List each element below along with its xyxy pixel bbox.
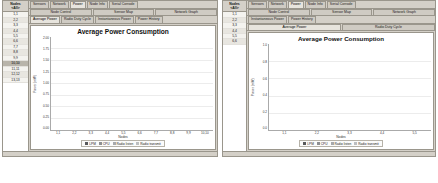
left-node-list-item[interactable]: 13,13 [3, 78, 28, 83]
left-legend-swatch-icon [85, 142, 88, 145]
left-grid-line [51, 60, 213, 61]
left-tab-row-primary[interactable]: SensorsNetworkPowerNode InfoSerial Conso… [29, 1, 217, 9]
left-tab-sensor-map[interactable]: Sensor Map [93, 9, 155, 16]
left-node-sidebar[interactable]: Nodes <All> 1,12,23,34,45,56,67,78,89,91… [3, 1, 29, 151]
right-chart-legend: LPMCPURadio listenRadio transmit [299, 140, 383, 147]
left-chart-legend: LPMCPURadio listenRadio transmit [81, 140, 165, 147]
right-y-axis-ticks: 1.00.80.60.40.20.0 [255, 44, 268, 130]
right-legend-swatch-icon [354, 142, 357, 145]
right-y-tick: 0.8 [263, 61, 267, 64]
right-legend-swatch-icon [317, 142, 320, 145]
right-sidebar-header: Nodes <All> [223, 1, 246, 12]
left-grid-line [51, 72, 213, 73]
right-legend-label: Radio listen [335, 142, 352, 146]
right-tab-node-info[interactable]: Node Info [305, 1, 326, 8]
left-y-tick: 1.50 [43, 59, 49, 62]
left-node-list[interactable]: 1,12,23,34,45,56,67,78,89,910,1011,1112,… [3, 12, 28, 151]
left-grid-line [51, 48, 213, 49]
left-tab-serial-console[interactable]: Serial Console [109, 1, 138, 8]
left-tab-sensors[interactable]: Sensors [30, 1, 49, 8]
right-legend-item: CPU [317, 142, 328, 146]
left-legend-item: LPM [85, 142, 96, 146]
left-tab-node-control[interactable]: Node Control [30, 9, 92, 16]
left-legend-swatch-icon [136, 142, 139, 145]
left-tab-average-power[interactable]: Average Power [30, 16, 60, 23]
left-legend-swatch-icon [113, 142, 116, 145]
left-legend-item: CPU [99, 142, 110, 146]
right-tab-power-history[interactable]: Power History [288, 16, 316, 23]
right-legend-swatch-icon [303, 142, 306, 145]
right-legend-item: Radio transmit [354, 142, 379, 146]
left-tab-row-tertiary[interactable]: Average PowerRadio Duty CycleInstantaneo… [29, 16, 217, 24]
left-legend-label: CPU [103, 142, 110, 146]
right-tab-serial-console[interactable]: Serial Console [327, 1, 356, 8]
left-chart-title: Average Power Consumption [31, 26, 215, 37]
left-sidebar-header-filter: <All> [3, 6, 28, 11]
left-window: Nodes <All> 1,12,23,34,45,56,67,78,89,91… [2, 0, 218, 152]
left-tab-power-history[interactable]: Power History [135, 16, 163, 23]
right-tab-instantaneous-power[interactable]: Instantaneous Power [248, 16, 287, 23]
left-tab-instantaneous-power[interactable]: Instantaneous Power [95, 16, 134, 23]
right-y-tick: 0.2 [263, 111, 267, 114]
left-legend-swatch-icon [99, 142, 102, 145]
left-grid-line [51, 118, 213, 119]
right-legend-swatch-icon [331, 142, 334, 145]
right-y-tick: 0.4 [263, 94, 267, 97]
right-x-axis-label: Nodes [249, 135, 433, 139]
left-tab-radio-duty-cycle[interactable]: Radio Duty Cycle [61, 16, 94, 23]
right-node-list-item[interactable]: 6,6 [223, 39, 246, 44]
right-node-sidebar[interactable]: Nodes <All> 1,12,23,34,45,56,6 [223, 1, 247, 151]
right-tab-power[interactable]: Power [288, 1, 304, 8]
left-status-bar [2, 152, 218, 157]
left-legend-item: Radio transmit [136, 142, 161, 146]
right-tab-row-quaternary[interactable]: Average PowerRadio Duty Cycle [247, 24, 435, 32]
right-legend-label: LPM [307, 142, 314, 146]
right-main-column: SensorsNetworkPowerNode InfoSerial Conso… [247, 1, 435, 151]
left-legend-label: Radio transmit [140, 142, 161, 146]
right-tab-row-secondary[interactable]: Node ControlSensor MapNetwork Graph [247, 9, 435, 17]
right-tab-sensors[interactable]: Sensors [248, 1, 267, 8]
right-tab-radio-duty-cycle[interactable]: Radio Duty Cycle [342, 24, 435, 31]
left-plot-canvas [50, 37, 213, 131]
right-legend-label: Radio transmit [358, 142, 379, 146]
right-node-list[interactable]: 1,12,23,34,45,56,6 [223, 12, 246, 151]
left-grid-line [51, 95, 213, 96]
right-grid-line [269, 96, 431, 97]
left-chart-area: Average Power Consumption Power (mW) 2.0… [30, 25, 216, 150]
left-legend-label: Radio listen [117, 142, 134, 146]
left-y-tick: 1.75 [43, 48, 49, 51]
right-grid-line [269, 78, 431, 79]
right-chart-area: Average Power Consumption Power (mW) 1.0… [248, 32, 434, 150]
left-grid-line [51, 106, 213, 107]
left-sidebar-header: Nodes <All> [3, 1, 28, 12]
right-window-panel: Nodes <All> 1,12,23,34,45,56,6 SensorsNe… [222, 0, 436, 183]
left-y-tick: 1.25 [43, 71, 49, 74]
right-tab-row-tertiary[interactable]: Instantaneous PowerPower History [247, 16, 435, 24]
right-sidebar-header-filter: <All> [223, 6, 246, 11]
left-y-axis-label: Power (mW) [32, 37, 37, 131]
right-tab-sensor-map[interactable]: Sensor Map [311, 9, 373, 16]
left-tab-node-info[interactable]: Node Info [87, 1, 108, 8]
right-tab-network[interactable]: Network [268, 1, 287, 8]
right-tab-node-control[interactable]: Node Control [248, 9, 310, 16]
right-tab-row-primary[interactable]: SensorsNetworkPowerNode InfoSerial Conso… [247, 1, 435, 9]
right-y-axis-label: Power (mW) [250, 44, 255, 130]
left-plot-wrap: Power (mW) 2.001.751.501.251.000.750.500… [31, 37, 215, 131]
right-chart-title: Average Power Consumption [249, 33, 433, 44]
left-main-column: SensorsNetworkPowerNode InfoSerial Conso… [29, 1, 217, 151]
right-legend-label: CPU [321, 142, 328, 146]
right-tab-average-power[interactable]: Average Power [248, 24, 341, 31]
right-legend-item: Radio listen [331, 142, 352, 146]
left-tab-power[interactable]: Power [70, 1, 86, 8]
left-legend-item: Radio listen [113, 142, 134, 146]
right-legend-item: LPM [303, 142, 314, 146]
right-window: Nodes <All> 1,12,23,34,45,56,6 SensorsNe… [222, 0, 436, 152]
left-tab-row-secondary[interactable]: Node ControlSensor MapNetwork Graph [29, 9, 217, 17]
left-window-panel: Nodes <All> 1,12,23,34,45,56,67,78,89,91… [2, 0, 218, 183]
left-x-axis-label: Nodes [31, 135, 215, 139]
right-tab-network-graph[interactable]: Network Graph [373, 9, 435, 16]
left-tab-network-graph[interactable]: Network Graph [155, 9, 217, 16]
left-tab-network[interactable]: Network [50, 1, 69, 8]
left-legend-label: LPM [89, 142, 96, 146]
screenshot-stage: Nodes <All> 1,12,23,34,45,56,67,78,89,91… [0, 0, 438, 183]
